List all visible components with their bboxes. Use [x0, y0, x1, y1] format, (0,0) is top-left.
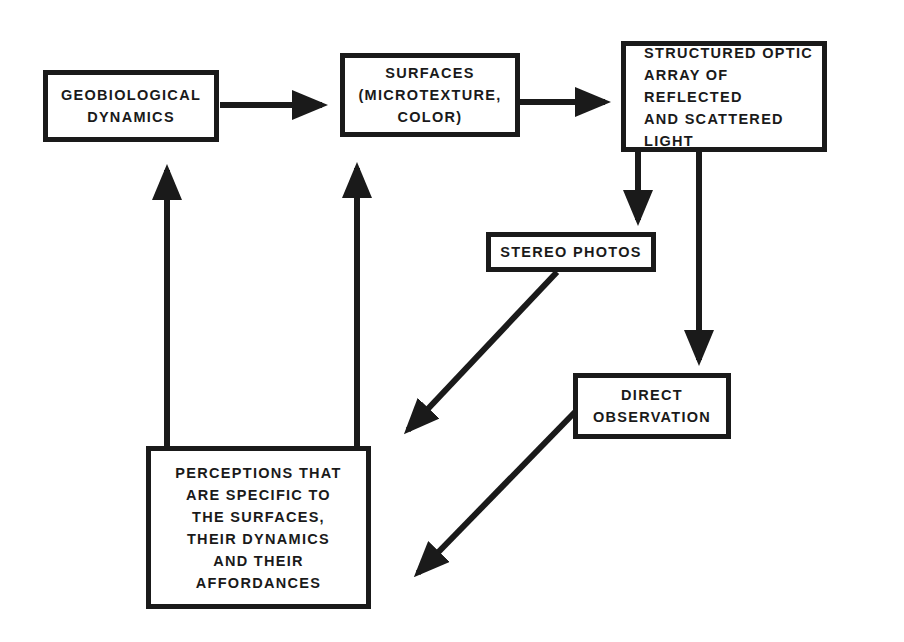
node-structured-optic-array: STRUCTURED OPTIC ARRAY OF REFLECTED AND …: [621, 41, 827, 152]
arrow-stereo-photos-to-perceptions: [408, 272, 557, 430]
node-direct-observation: DIRECT OBSERVATION: [573, 373, 731, 439]
arrow-direct-observation-to-perceptions: [418, 412, 575, 573]
node-surfaces: SURFACES (MICROTEXTURE, COLOR): [340, 53, 520, 137]
node-stereo-photos: STEREO PHOTOS: [486, 232, 656, 272]
node-perceptions: PERCEPTIONS THAT ARE SPECIFIC TO THE SUR…: [146, 446, 371, 609]
node-geobiological-dynamics: GEOBIOLOGICAL DYNAMICS: [43, 70, 219, 142]
